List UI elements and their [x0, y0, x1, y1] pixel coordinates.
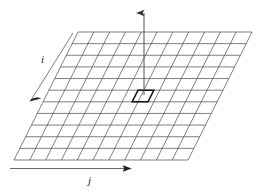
grid-row-lines — [14, 32, 252, 160]
grid-column-lines — [14, 32, 252, 160]
perspective-grid-diagram — [0, 0, 261, 193]
axis-label-i: i — [41, 54, 44, 65]
grid-mesh — [14, 32, 252, 160]
axis-label-j: j — [88, 175, 91, 186]
figure-root: i j — [0, 0, 261, 193]
